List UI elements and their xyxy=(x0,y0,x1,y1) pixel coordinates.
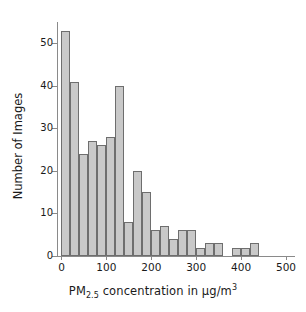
x-tick-label: 300 xyxy=(186,262,206,273)
x-axis-spine xyxy=(57,256,295,257)
histogram-bar xyxy=(106,137,115,256)
histogram-figure: 010203040500100200300400500 Number of Im… xyxy=(0,0,306,312)
x-tick-mark xyxy=(286,256,287,260)
x-tick-mark xyxy=(151,256,152,260)
x-tick-mark xyxy=(61,256,62,260)
histogram-bar xyxy=(70,82,79,256)
y-axis-title: Number of Images xyxy=(11,66,25,226)
histogram-bar xyxy=(196,248,205,257)
x-axis-title: PM2.5 concentration in µg/m3 xyxy=(0,283,306,300)
y-tick-label: 30 xyxy=(40,123,53,133)
x-axis-title-superscript: 3 xyxy=(232,283,237,292)
histogram-bar xyxy=(160,226,169,256)
x-tick-mark xyxy=(241,256,242,260)
y-tick-label: 50 xyxy=(40,38,53,48)
histogram-bar xyxy=(169,239,178,256)
histogram-bar xyxy=(142,192,151,256)
x-axis-title-prefix: PM xyxy=(69,284,86,298)
histogram-bar xyxy=(250,243,259,256)
histogram-bar xyxy=(178,230,187,256)
x-tick-label: 200 xyxy=(141,262,161,273)
histogram-bar xyxy=(97,145,106,256)
x-axis-title-middle: concentration in µg/m xyxy=(99,284,232,298)
x-tick-mark xyxy=(106,256,107,260)
histogram-bar xyxy=(241,248,250,257)
histogram-bar xyxy=(61,31,70,256)
histogram-bar xyxy=(187,230,196,256)
histogram-bar xyxy=(214,243,223,256)
y-tick-label: 40 xyxy=(40,81,53,91)
x-tick-label: 100 xyxy=(96,262,116,273)
histogram-bar xyxy=(79,154,88,256)
histogram-bar xyxy=(88,141,97,256)
plot-area: 010203040500100200300400500 xyxy=(57,22,295,256)
x-tick-label: 0 xyxy=(58,262,65,273)
y-tick-label: 0 xyxy=(47,251,53,261)
y-tick-label: 20 xyxy=(40,166,53,176)
histogram-bar xyxy=(133,171,142,256)
x-tick-mark xyxy=(196,256,197,260)
x-tick-label: 500 xyxy=(276,262,296,273)
y-tick-label: 10 xyxy=(40,208,53,218)
histogram-bar xyxy=(205,243,214,256)
histogram-bar xyxy=(232,248,241,257)
histogram-bar xyxy=(151,230,160,256)
x-axis-title-subscript: 2.5 xyxy=(86,291,99,300)
histogram-bar xyxy=(124,222,133,256)
histogram-bar xyxy=(115,86,124,256)
x-tick-label: 400 xyxy=(231,262,251,273)
